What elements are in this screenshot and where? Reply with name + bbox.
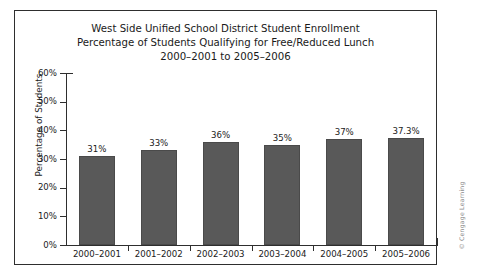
y-axis-tick-label: 10% [26,211,57,221]
bar-value-label: 33% [129,138,189,148]
bar [79,156,115,245]
x-axis-category-label: 2004–2005 [310,249,378,259]
x-axis-category-label: 2002–2003 [187,249,255,259]
y-axis-tick [60,245,66,246]
bar [141,150,177,245]
y-axis-tick [60,102,66,103]
bar-value-label: 31% [67,144,127,154]
y-axis-tick-label: 0% [26,240,57,250]
x-axis-category-label: 2005–2006 [372,249,440,259]
bar [203,142,239,245]
y-axis-tick-label: 50% [26,96,57,106]
x-axis-right-cap [437,238,438,246]
bar-value-label: 35% [252,133,312,143]
x-axis-category-label: 2003–2004 [248,249,316,259]
y-axis-tick [60,130,66,131]
y-axis-tick [60,73,66,74]
y-axis-tick [60,216,66,217]
y-axis-tick [60,188,66,189]
y-axis-tick [60,159,66,160]
y-axis-tick-label: 60% [26,68,57,78]
credit-line: © Cengage Learning [458,130,465,250]
x-axis-category-label: 2001–2002 [125,249,193,259]
chart-figure: West Side Unified School District Studen… [0,0,478,276]
bar [326,139,362,245]
bar-value-label: 37% [314,127,374,137]
y-axis-tick-label: 20% [26,182,57,192]
y-axis-tick-label: 40% [26,125,57,135]
bar [388,138,424,245]
chart-title-line-1: West Side Unified School District Studen… [14,22,437,36]
chart-title: West Side Unified School District Studen… [14,22,437,64]
bar-value-label: 36% [191,130,251,140]
bar [264,145,300,245]
y-axis-top-cap [66,73,73,74]
chart-title-line-3: 2000–2001 to 2005–2006 [14,50,437,64]
x-axis-category-label: 2000–2001 [63,249,131,259]
y-axis-tick-label: 30% [26,154,57,164]
bar-value-label: 37.3% [376,126,436,136]
chart-title-line-2: Percentage of Students Qualifying for Fr… [14,36,437,50]
y-axis-line [66,73,67,246]
